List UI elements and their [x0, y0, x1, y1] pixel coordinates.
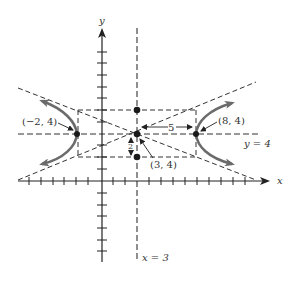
vertex-right-point [193, 131, 199, 137]
semi-conjugate-label: 2 [128, 142, 133, 151]
semi-transverse-dimension: 5 [142, 122, 192, 133]
right-branch-lower [196, 134, 232, 164]
semi-transverse-label: 5 [168, 122, 174, 133]
co-vertex-top-point [134, 107, 141, 114]
co-vertex-bottom-point [134, 154, 141, 161]
center-annotation: (3, 4) [140, 139, 177, 170]
line-y-equals-4-label: y = 4 [243, 138, 271, 149]
center-point [134, 131, 141, 138]
left-branch-lower [42, 134, 77, 164]
hyperbola-diagram: 5 2 (−2, 4) (8, 4) (3, 4) y = 4 x = 3 x … [0, 0, 295, 281]
line-x-equals-3-label: x = 3 [142, 252, 169, 263]
y-axis-label: y [98, 15, 105, 26]
coordinate-axes [18, 30, 268, 262]
vertex-left-label: (−2, 4) [22, 116, 57, 127]
center-label: (3, 4) [150, 159, 177, 170]
vertex-left-point [74, 131, 80, 137]
vertex-left-annotation: (−2, 4) [22, 116, 73, 130]
vertex-right-annotation: (8, 4) [201, 115, 245, 131]
semi-conjugate-dimension: 2 [128, 138, 133, 155]
vertex-right-label: (8, 4) [218, 115, 245, 126]
x-axis-label: x [277, 175, 283, 186]
